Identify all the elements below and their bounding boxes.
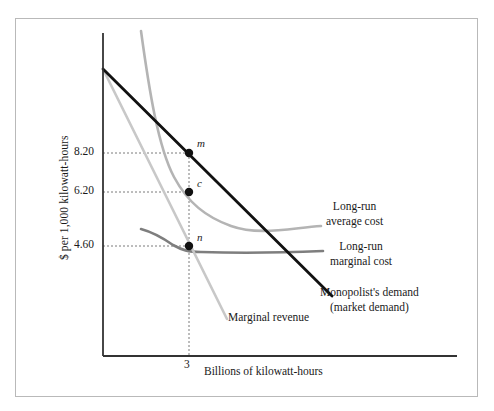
curve-label-marginal-revenue: Marginal revenue [228,310,309,325]
curve-label-long-run-marginal-cost: Long-run marginal cost [330,239,392,269]
curve-label-long-run-average-cost: Long-run average cost [326,199,383,229]
point-marker-c [185,188,193,196]
mr-label-line-1: Marginal revenue [228,310,309,325]
point-label-c: c [197,177,202,189]
lrac-label-line-2: average cost [326,214,383,229]
demand-label-line-1: Monopolist's demand [320,285,419,300]
y-tick-label-460: 4.60 [62,238,94,250]
curve-long-run-marginal-cost [141,229,323,253]
curve-label-monopolists-demand: Monopolist's demand (market demand) [320,285,419,315]
x-tick-label-3: 3 [184,358,190,370]
line-monopolists-demand [103,69,332,296]
chart-canvas [16,19,477,396]
lrac-label-line-1: Long-run [326,199,383,214]
x-axis-title: Billions of kilowatt-hours [204,365,323,377]
point-marker-m [185,149,193,157]
y-tick-label-820: 8.20 [62,145,94,157]
demand-label-line-2: (market demand) [320,300,419,315]
line-marginal-revenue [103,69,227,319]
point-marker-n [185,242,193,250]
figure-container: $ per 1,000 kilowatt-hours Billions of k… [0,0,494,411]
point-label-m: m [197,137,205,149]
point-label-n: n [197,231,203,243]
lrmc-label-line-2: marginal cost [330,254,392,269]
plot-frame [15,18,478,397]
guide-lines [103,153,189,356]
y-tick-label-620: 6.20 [62,184,94,196]
lrmc-label-line-1: Long-run [330,239,392,254]
